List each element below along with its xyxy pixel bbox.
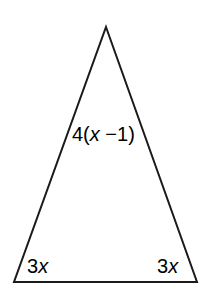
expression-suffix: −1) <box>100 123 135 145</box>
label-right-base-angle: 3x <box>157 256 178 276</box>
variable-x: x <box>38 255 48 277</box>
variable-x: x <box>90 123 100 145</box>
variable-x: x <box>168 255 178 277</box>
isosceles-triangle-outline <box>14 27 197 282</box>
expression-prefix: 4( <box>72 123 90 145</box>
triangle-shape <box>0 0 211 298</box>
geometry-figure: 4(x −1) 3x 3x <box>0 0 211 298</box>
angle-coefficient: 3 <box>157 255 168 277</box>
angle-coefficient: 3 <box>27 255 38 277</box>
label-left-side-expression: 4(x −1) <box>72 124 135 144</box>
label-left-base-angle: 3x <box>27 256 48 276</box>
